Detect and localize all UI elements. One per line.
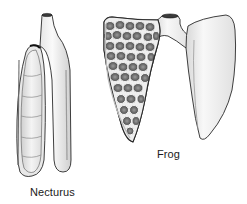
necturus-label: Necturus: [30, 186, 75, 198]
lung-comparison-figure: Necturus Frog: [0, 0, 247, 204]
frog-left-lung: [100, 15, 165, 145]
necturus-lungs-illustration: [0, 0, 247, 204]
frog-right-lung: [186, 15, 236, 139]
necturus-left-lung: [17, 45, 46, 177]
frog-label: Frog: [157, 148, 180, 160]
necturus-glottis-icon: [42, 13, 52, 16]
frog-glottis-icon: [162, 14, 178, 18]
